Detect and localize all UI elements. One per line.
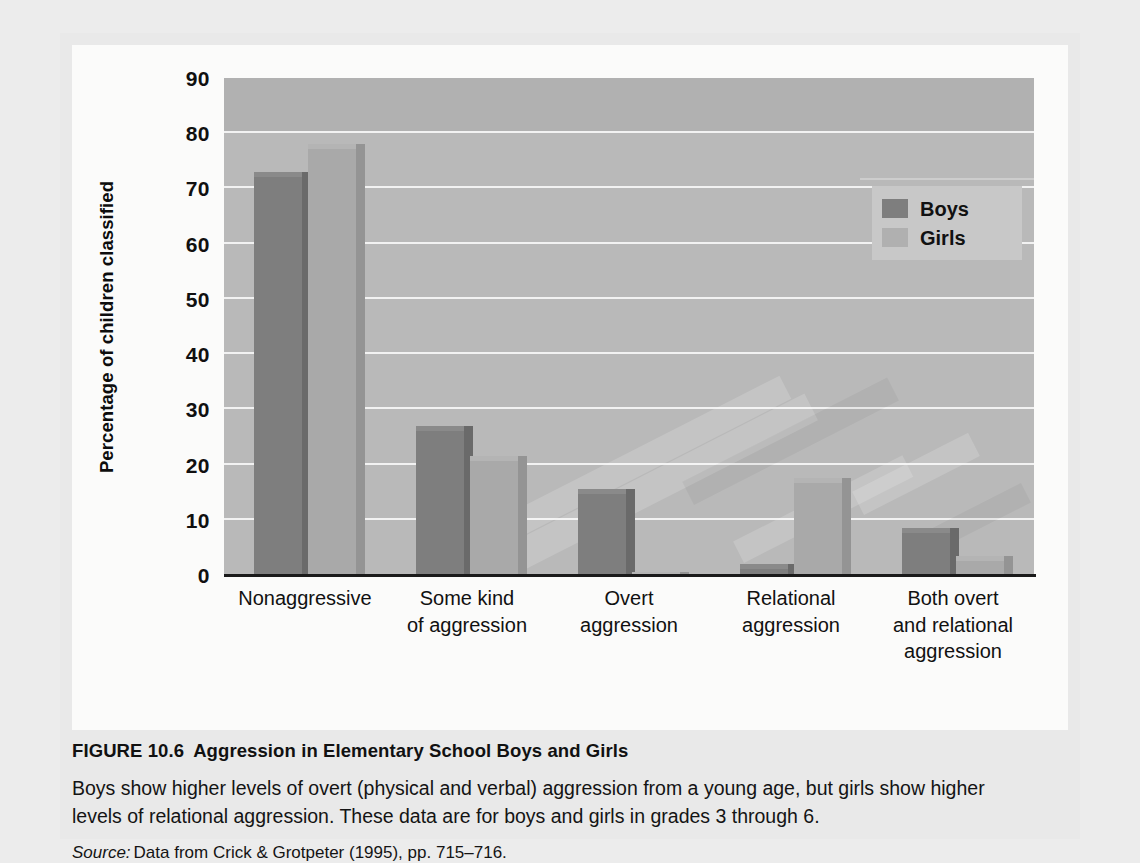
y-tick-label-10: 10: [186, 509, 210, 530]
bar-top-face: [794, 478, 842, 483]
x-axis-label-line: Relational: [710, 585, 872, 612]
y-tick-label-0: 0: [198, 565, 210, 586]
x-axis-label-4: Relationalaggression: [710, 585, 872, 638]
y-axis-ticks: 0102030405060708090: [72, 45, 224, 605]
bar-girls-5: [956, 556, 1004, 575]
legend-swatch-girls: [882, 228, 908, 247]
bar-front-face: [902, 528, 950, 575]
bar-group-3: [578, 78, 689, 575]
y-tick-label-20: 20: [186, 454, 210, 475]
bar-front-face: [794, 478, 842, 575]
x-axis-labels: NonaggressiveSome kindof aggressionOvert…: [224, 585, 1034, 725]
plot-area: Boys Girls: [224, 78, 1034, 575]
x-axis-label-line: aggression: [710, 612, 872, 639]
x-axis-label-line: Both overt: [872, 585, 1034, 612]
figure-title: FIGURE 10.6Aggression in Elementary Scho…: [72, 740, 1068, 762]
bar-front-face: [578, 489, 626, 575]
y-tick-label-50: 50: [186, 288, 210, 309]
legend-item-girls: Girls: [882, 223, 1012, 252]
bar-side-face: [626, 489, 635, 575]
x-axis-label-5: Both overtand relationalaggression: [872, 585, 1034, 665]
bar-front-face: [308, 144, 356, 575]
figure-title-text: Aggression in Elementary School Boys and…: [193, 740, 628, 761]
bar-boys-1: [254, 172, 302, 575]
y-tick-label-70: 70: [186, 178, 210, 199]
bar-top-face: [902, 528, 950, 533]
bar-boys-3: [578, 489, 626, 575]
x-axis-label-line: Overt: [548, 585, 710, 612]
x-axis-label-line: aggression: [548, 612, 710, 639]
x-axis-label-3: Overtaggression: [548, 585, 710, 638]
figure-number: FIGURE 10.6: [72, 740, 184, 761]
figure-caption: FIGURE 10.6Aggression in Elementary Scho…: [72, 740, 1068, 863]
bar-boys-2: [416, 426, 464, 575]
bar-front-face: [254, 172, 302, 575]
figure-description: Boys show higher levels of overt (physic…: [72, 775, 1032, 830]
bar-side-face: [356, 144, 365, 575]
bar-front-face: [416, 426, 464, 575]
y-tick-label-30: 30: [186, 399, 210, 420]
bar-top-face: [470, 456, 518, 461]
bar-group-5: [902, 78, 1013, 575]
bar-group-2: [416, 78, 527, 575]
bar-top-face: [254, 172, 302, 177]
bar-girls-1: [308, 144, 356, 575]
bar-top-face: [308, 144, 356, 149]
x-axis-label-2: Some kindof aggression: [386, 585, 548, 638]
bar-top-face: [416, 426, 464, 431]
bar-top-face: [740, 564, 788, 569]
source-label: Source:: [72, 843, 131, 862]
legend-swatch-boys: [882, 199, 908, 218]
y-tick-label-80: 80: [186, 123, 210, 144]
bar-boys-5: [902, 528, 950, 575]
chart-panel: Percentage of children classified 010203…: [72, 45, 1068, 730]
bar-girls-4: [794, 478, 842, 575]
figure-block: Percentage of children classified 010203…: [60, 33, 1080, 839]
bar-girls-2: [470, 456, 518, 575]
bar-side-face: [842, 478, 851, 575]
legend-label-girls: Girls: [920, 228, 966, 248]
x-axis-label-line: and relational: [872, 612, 1034, 639]
bar-top-face: [956, 556, 1004, 561]
bar-group-4: [740, 78, 851, 575]
x-axis-line: [224, 574, 1036, 577]
x-axis-label-line: Some kind: [386, 585, 548, 612]
source-text: Data from Crick & Grotpeter (1995), pp. …: [134, 843, 507, 862]
x-axis-label-line: Nonaggressive: [224, 585, 386, 612]
legend-label-boys: Boys: [920, 199, 969, 219]
y-tick-label-40: 40: [186, 344, 210, 365]
legend-item-boys: Boys: [882, 194, 1012, 223]
bar-side-face: [518, 456, 527, 575]
bar-front-face: [470, 456, 518, 575]
x-axis-label-line: aggression: [872, 638, 1034, 665]
legend-top-rule: [860, 178, 1034, 180]
y-tick-label-90: 90: [186, 68, 210, 89]
x-axis-label-1: Nonaggressive: [224, 585, 386, 612]
bar-side-face: [1004, 556, 1013, 575]
figure-source: Source:Data from Crick & Grotpeter (1995…: [72, 843, 1068, 863]
y-tick-label-60: 60: [186, 233, 210, 254]
bar-group-1: [254, 78, 365, 575]
x-axis-label-line: of aggression: [386, 612, 548, 639]
bar-top-face: [578, 489, 626, 494]
chart-legend: Boys Girls: [872, 186, 1022, 260]
